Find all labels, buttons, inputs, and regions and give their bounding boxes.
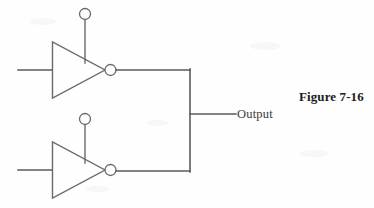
inverter-bottom-control-bubble-icon [80,114,91,125]
figure-page: Output Figure 7-16 [0,0,374,208]
inverter-bottom-triangle-body [53,142,106,198]
inverter-bottom-output-bubble-icon [105,165,116,176]
output-label: Output [237,107,273,122]
inverter-top [18,9,190,99]
inverter-bottom [18,114,190,199]
inverter-top-control-bubble-icon [80,9,91,20]
output-bus [190,69,236,172]
inverter-top-triangle-body [53,42,106,98]
figure-caption: Figure 7-16 [299,89,364,105]
inverter-top-output-bubble-icon [105,65,116,76]
